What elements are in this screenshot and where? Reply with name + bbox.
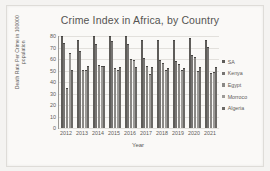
chart-page: Crime Index in Africa, by Country Death … bbox=[0, 0, 270, 171]
x-axis-tick-label: 2013 bbox=[74, 130, 90, 140]
y-axis-tick-label: 30 bbox=[50, 91, 56, 97]
x-axis-tick-label: 2018 bbox=[154, 130, 170, 140]
bar-group bbox=[123, 36, 139, 128]
legend-item[interactable]: Morroco bbox=[222, 91, 268, 103]
bar bbox=[167, 68, 169, 128]
y-axis-tick-label: 70 bbox=[50, 45, 56, 51]
gridline bbox=[59, 128, 219, 129]
y-axis-title: Death Rate Per Crime in 100000 populatio… bbox=[14, 4, 26, 100]
x-axis-tick-label: 2016 bbox=[122, 130, 138, 140]
legend-item-label: SA bbox=[228, 59, 235, 65]
x-axis-tick-label: 2015 bbox=[106, 130, 122, 140]
bar-group bbox=[107, 36, 123, 128]
y-axis-tick-label: 60 bbox=[50, 56, 56, 62]
legend-item[interactable]: Algeria bbox=[222, 102, 268, 114]
bar-groups bbox=[59, 36, 219, 128]
bar bbox=[135, 67, 137, 128]
x-axis-tick-label: 2012 bbox=[58, 130, 74, 140]
bar-group bbox=[187, 36, 203, 128]
legend-item-label: Algeria bbox=[228, 105, 245, 111]
x-axis-tick-label: 2019 bbox=[170, 130, 186, 140]
y-axis-tick-label: 10 bbox=[50, 114, 56, 120]
chart-container: Crime Index in Africa, by Country Death … bbox=[10, 8, 260, 162]
legend-item[interactable]: Kenya bbox=[222, 68, 268, 80]
y-axis-tick-label: 20 bbox=[50, 102, 56, 108]
legend-item-label: Morroco bbox=[228, 94, 247, 100]
legend-item-label: Egypt bbox=[228, 82, 242, 88]
bar-group bbox=[59, 36, 75, 128]
bar bbox=[215, 67, 217, 128]
bar bbox=[183, 68, 185, 128]
y-axis-tick-label: 40 bbox=[50, 79, 56, 85]
legend-item-label: Kenya bbox=[228, 70, 243, 76]
legend-swatch-icon bbox=[222, 60, 225, 63]
bar bbox=[103, 66, 105, 128]
bar-group bbox=[91, 36, 107, 128]
chart-title: Crime Index in Africa, by Country bbox=[50, 14, 230, 26]
y-axis-tick-label: 80 bbox=[50, 33, 56, 39]
legend-item[interactable]: Egypt bbox=[222, 79, 268, 91]
bar-group bbox=[155, 36, 171, 128]
legend-swatch-icon bbox=[222, 95, 225, 98]
y-axis-tick-label: 50 bbox=[50, 68, 56, 74]
bar-group bbox=[139, 36, 155, 128]
legend-item[interactable]: SA bbox=[222, 56, 268, 68]
legend-swatch-icon bbox=[222, 72, 225, 75]
legend-swatch-icon bbox=[222, 83, 225, 86]
y-axis-tick-label: 0 bbox=[53, 125, 56, 131]
x-axis-title: Year bbox=[58, 142, 218, 148]
x-axis-tick-label: 2017 bbox=[138, 130, 154, 140]
bar-group bbox=[75, 36, 91, 128]
bar bbox=[71, 70, 73, 129]
x-axis-tick-label: 2014 bbox=[90, 130, 106, 140]
bar-group bbox=[203, 36, 219, 128]
x-axis-tick-label: 2021 bbox=[202, 130, 218, 140]
x-axis-tick-label: 2020 bbox=[186, 130, 202, 140]
bar bbox=[151, 67, 153, 128]
x-axis-ticks: 2012201320142015201620172018201920202021 bbox=[58, 130, 218, 140]
bar bbox=[199, 67, 201, 128]
bar-group bbox=[171, 36, 187, 128]
legend-swatch-icon bbox=[222, 107, 225, 110]
bar bbox=[87, 66, 89, 128]
bar bbox=[119, 67, 121, 128]
chart-legend: SAKenyaEgyptMorrocoAlgeria bbox=[222, 56, 268, 114]
plot-area: 01020304050607080 bbox=[58, 36, 219, 129]
